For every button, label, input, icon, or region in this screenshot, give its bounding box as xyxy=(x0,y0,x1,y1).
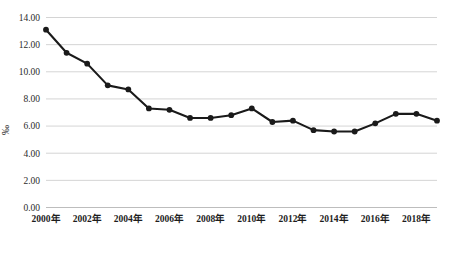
data-point xyxy=(43,27,49,33)
chart-container: 0.002.004.006.008.0010.0012.0014.00 2000… xyxy=(0,0,453,271)
y-axis-title: ‰ xyxy=(0,125,11,135)
data-point xyxy=(290,118,296,124)
data-point xyxy=(434,118,440,124)
y-tick-label: 8.00 xyxy=(23,94,40,104)
data-point xyxy=(187,115,193,121)
data-point xyxy=(167,107,173,113)
x-tick-label: 2004年 xyxy=(114,213,143,224)
y-tick-label: 10.00 xyxy=(19,67,41,77)
data-point xyxy=(249,106,255,112)
y-tick-label: 2.00 xyxy=(23,176,40,186)
line-chart: 0.002.004.006.008.0010.0012.0014.00 2000… xyxy=(0,0,453,271)
x-tick-label: 2000年 xyxy=(32,213,61,224)
x-axis-tick-labels: 2000年2002年2004年2006年2008年2010年2012年2014年… xyxy=(32,213,431,224)
x-tick-label: 2006年 xyxy=(155,213,184,224)
x-tick-label: 2002年 xyxy=(73,213,102,224)
data-point xyxy=(84,61,90,67)
x-tick-label: 2008年 xyxy=(196,213,225,224)
data-point xyxy=(331,129,337,135)
data-point xyxy=(352,129,358,135)
y-tick-label: 14.00 xyxy=(19,13,41,23)
data-point xyxy=(414,111,420,117)
x-tick-label: 2010年 xyxy=(237,213,266,224)
data-point xyxy=(269,119,275,125)
data-point xyxy=(372,120,378,126)
x-tick-label: 2014年 xyxy=(320,213,349,224)
data-point xyxy=(311,127,317,133)
y-tick-label: 0.00 xyxy=(23,203,40,213)
x-tick-label: 2016年 xyxy=(361,213,390,224)
data-point xyxy=(393,111,399,117)
y-tick-label: 12.00 xyxy=(19,40,41,50)
y-tick-label: 4.00 xyxy=(23,149,40,159)
data-series xyxy=(43,27,440,135)
y-axis-tick-labels: 0.002.004.006.008.0010.0012.0014.00 xyxy=(19,13,41,213)
data-point xyxy=(64,50,70,56)
y-tick-label: 6.00 xyxy=(23,121,40,131)
data-point xyxy=(125,87,131,93)
data-point xyxy=(146,106,152,112)
x-tick-label: 2012年 xyxy=(278,213,307,224)
data-point xyxy=(228,112,234,118)
data-point xyxy=(208,115,214,121)
y-axis-title-label: ‰ xyxy=(0,125,11,135)
x-tick-label: 2018年 xyxy=(402,213,431,224)
data-point xyxy=(105,82,111,88)
